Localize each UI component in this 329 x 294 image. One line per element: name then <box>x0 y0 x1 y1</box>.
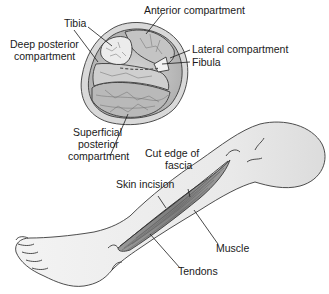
label-lateral-compartment: Lateral compartment <box>192 43 288 55</box>
fasciotomy-diagram: Tibia Anterior compartment Deep posterio… <box>0 0 329 294</box>
label-cut-edge-line2: fascia <box>165 159 193 171</box>
label-deep-posterior-line1: Deep posterior <box>10 38 79 50</box>
label-tendons: Tendons <box>178 265 218 277</box>
label-superficial-line1: Superficial <box>73 126 122 138</box>
label-skin-incision: Skin incision <box>116 178 175 190</box>
label-tibia: Tibia <box>64 17 87 29</box>
label-cut-edge-line1: Cut edge of <box>145 147 199 159</box>
label-anterior-compartment: Anterior compartment <box>144 4 245 16</box>
label-superficial-line2: posterior <box>78 138 119 150</box>
cross-section <box>81 22 188 124</box>
label-deep-posterior-line2: compartment <box>14 50 75 62</box>
label-fibula: Fibula <box>192 56 221 68</box>
label-muscle: Muscle <box>216 242 249 254</box>
label-superficial-line3: compartment <box>68 150 129 162</box>
